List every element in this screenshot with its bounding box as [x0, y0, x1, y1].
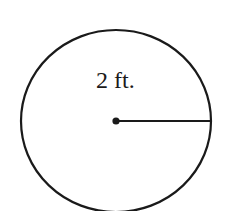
center-point [112, 117, 119, 124]
circle-diagram: 2 ft. [0, 0, 225, 211]
radius-label: 2 ft. [96, 67, 135, 93]
